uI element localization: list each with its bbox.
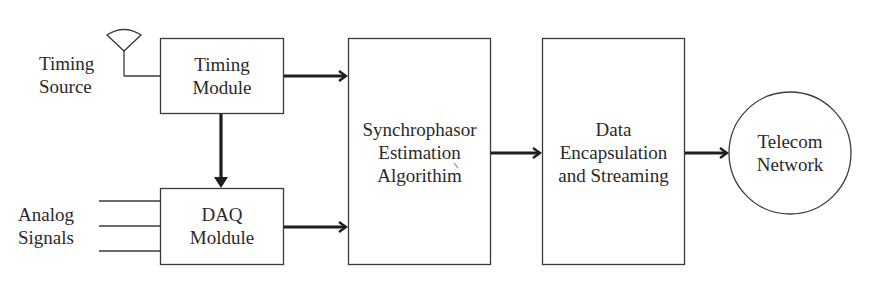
- timing-source-label: Timing Source: [39, 52, 94, 98]
- pmu-block-diagram: Timing Source Timing Module Analog Signa…: [0, 0, 875, 285]
- timing-module-label: Timing Module: [160, 53, 284, 99]
- daq-module-label: DAQ Moldule: [160, 203, 284, 249]
- analog-signal-lines: [99, 201, 160, 251]
- analog-signals-label: Analog Signals: [18, 203, 74, 249]
- data-encapsulation-label: Data Encapsulation and Streaming: [542, 118, 685, 187]
- synchrophasor-label: Synchrophasor Estimation Algorithim: [348, 118, 491, 187]
- arrow-timing-to-daq-head: [214, 177, 228, 188]
- telecom-network-label: Telecom Network: [729, 130, 851, 176]
- antenna-icon: [107, 30, 160, 77]
